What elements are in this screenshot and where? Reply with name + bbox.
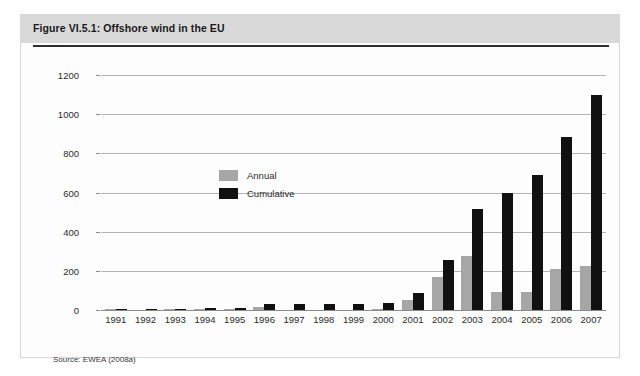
x-axis-label-2000: 2000	[373, 314, 394, 325]
x-axis-label-2006: 2006	[551, 314, 572, 325]
bar-group-2004	[491, 75, 513, 310]
bar-group-1994	[194, 75, 216, 310]
figure-container: Figure VI.5.1: Offshore wind in the EU 0…	[20, 14, 620, 358]
bar-cumulative-1991	[116, 309, 127, 311]
bar-group-1993	[164, 75, 186, 310]
bar-cumulative-2002	[443, 260, 454, 310]
bar-group-2001	[402, 75, 424, 310]
x-axis-label-1998: 1998	[313, 314, 334, 325]
bar-cumulative-1995	[235, 308, 246, 310]
bar-cumulative-1997	[294, 304, 305, 310]
y-tick-mark-1200	[96, 75, 100, 76]
x-axis-label-1994: 1994	[194, 314, 215, 325]
bar-group-1991	[105, 75, 127, 310]
bar-group-2007	[580, 75, 602, 310]
bar-cumulative-1992	[146, 309, 157, 311]
bar-cumulative-1998	[324, 304, 335, 310]
y-axis-label-600: 600	[19, 187, 79, 198]
bar-group-2002	[432, 75, 454, 310]
bar-annual-1996	[253, 307, 264, 310]
bar-annual-2003	[461, 256, 472, 310]
y-axis-label-800: 800	[19, 148, 79, 159]
y-axis-label-0: 0	[19, 305, 79, 316]
bar-annual-2001	[402, 300, 413, 310]
gridline-0	[101, 310, 606, 311]
x-axis-label-1997: 1997	[284, 314, 305, 325]
bar-annual-2005	[521, 292, 532, 310]
bar-annual-1994	[194, 309, 205, 311]
legend-swatch-annual	[219, 170, 238, 181]
bar-cumulative-1999	[353, 304, 364, 310]
x-axis-label-2002: 2002	[432, 314, 453, 325]
y-tick-mark-400	[96, 232, 100, 233]
bar-annual-2004	[491, 292, 502, 310]
bar-cumulative-2004	[502, 193, 513, 311]
x-axis-label-1999: 1999	[343, 314, 364, 325]
bar-annual-1991	[105, 309, 116, 311]
x-axis-label-2004: 2004	[491, 314, 512, 325]
x-axis-label-1996: 1996	[254, 314, 275, 325]
y-tick-mark-200	[96, 271, 100, 272]
bar-annual-2002	[432, 277, 443, 310]
bar-group-2000	[372, 75, 394, 310]
bar-group-2005	[521, 75, 543, 310]
legend-label-cumulative: Cumulative	[247, 188, 295, 199]
bar-annual-2006	[550, 269, 561, 310]
bar-cumulative-1996	[264, 304, 275, 310]
bar-annual-1993	[164, 309, 175, 311]
bar-group-1992	[135, 75, 157, 310]
bar-group-1998	[313, 75, 335, 310]
x-axis-label-1995: 1995	[224, 314, 245, 325]
figure-title: Figure VI.5.1: Offshore wind in the EU	[33, 22, 225, 34]
bar-cumulative-2006	[561, 137, 572, 310]
x-axis-label-2003: 2003	[462, 314, 483, 325]
chart-plot-wrapper: 020040060080010001200 199119921993199419…	[21, 51, 621, 341]
y-axis-label-400: 400	[19, 226, 79, 237]
legend-swatch-cumulative	[219, 188, 238, 199]
bar-annual-2000	[372, 309, 383, 311]
bar-annual-1995	[224, 309, 235, 311]
legend-item-annual: Annual	[219, 168, 295, 183]
x-axis-label-1991: 1991	[105, 314, 126, 325]
y-axis-label-200: 200	[19, 265, 79, 276]
bar-cumulative-1993	[175, 309, 186, 311]
bar-group-1999	[343, 75, 365, 310]
x-axis-label-2001: 2001	[402, 314, 423, 325]
bar-cumulative-2003	[472, 209, 483, 310]
chart-legend: AnnualCumulative	[219, 168, 295, 204]
bar-cumulative-1994	[205, 308, 216, 310]
y-tick-mark-1000	[96, 114, 100, 115]
x-axis-label-1993: 1993	[165, 314, 186, 325]
x-axis-label-2005: 2005	[521, 314, 542, 325]
bars-layer	[101, 75, 606, 310]
y-tick-mark-0	[96, 310, 100, 311]
y-tick-mark-600	[96, 193, 100, 194]
y-axis-label-1000: 1000	[19, 109, 79, 120]
x-axis-label-1992: 1992	[135, 314, 156, 325]
y-tick-mark-800	[96, 153, 100, 154]
source-note: Source: EWEA (2008a)	[53, 355, 136, 364]
legend-item-cumulative: Cumulative	[219, 186, 295, 201]
legend-label-annual: Annual	[247, 170, 277, 181]
bar-cumulative-2000	[383, 303, 394, 310]
bar-group-2003	[461, 75, 483, 310]
bar-cumulative-2007	[591, 95, 602, 310]
bar-cumulative-2005	[532, 175, 543, 310]
title-divider	[33, 45, 609, 47]
bar-group-2006	[550, 75, 572, 310]
bar-cumulative-2001	[413, 293, 424, 310]
chart-plot-area: 020040060080010001200 199119921993199419…	[101, 75, 606, 310]
bar-annual-2007	[580, 266, 591, 310]
y-axis-label-1200: 1200	[19, 70, 79, 81]
x-axis-label-2007: 2007	[581, 314, 602, 325]
